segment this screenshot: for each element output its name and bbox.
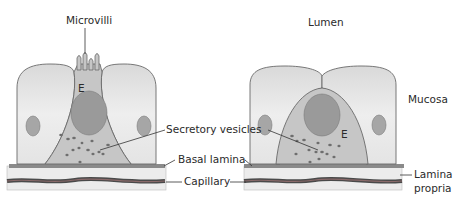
right-panel: E <box>244 66 404 190</box>
basal-lamina-right <box>244 164 404 168</box>
label-lumen: Lumen <box>308 16 344 28</box>
label-mucosa: Mucosa <box>408 93 448 105</box>
label-lamina-propria-2: propria <box>414 182 452 194</box>
label-lamina-propria-1: Lamina <box>414 168 453 180</box>
label-basal-lamina: Basal lamina <box>178 153 245 165</box>
nucleus-left <box>71 91 107 135</box>
leader-basal-left <box>164 160 175 166</box>
nucleus-right <box>304 94 340 136</box>
neighbor-nucleus-left-a <box>26 116 40 136</box>
epithelium-diagram: E E <box>0 0 454 206</box>
left-panel: E <box>7 53 166 191</box>
cell-label-left: E <box>78 82 85 94</box>
label-capillary: Capillary <box>184 175 230 187</box>
label-microvilli: Microvilli <box>66 14 112 26</box>
basal-lamina-left <box>9 164 165 168</box>
neighbor-nucleus-right-b <box>372 115 386 135</box>
neighbor-nucleus-left-b <box>137 116 151 136</box>
label-secretory-vesicles: Secretory vesicles <box>166 123 262 135</box>
cell-label-right: E <box>341 128 348 140</box>
